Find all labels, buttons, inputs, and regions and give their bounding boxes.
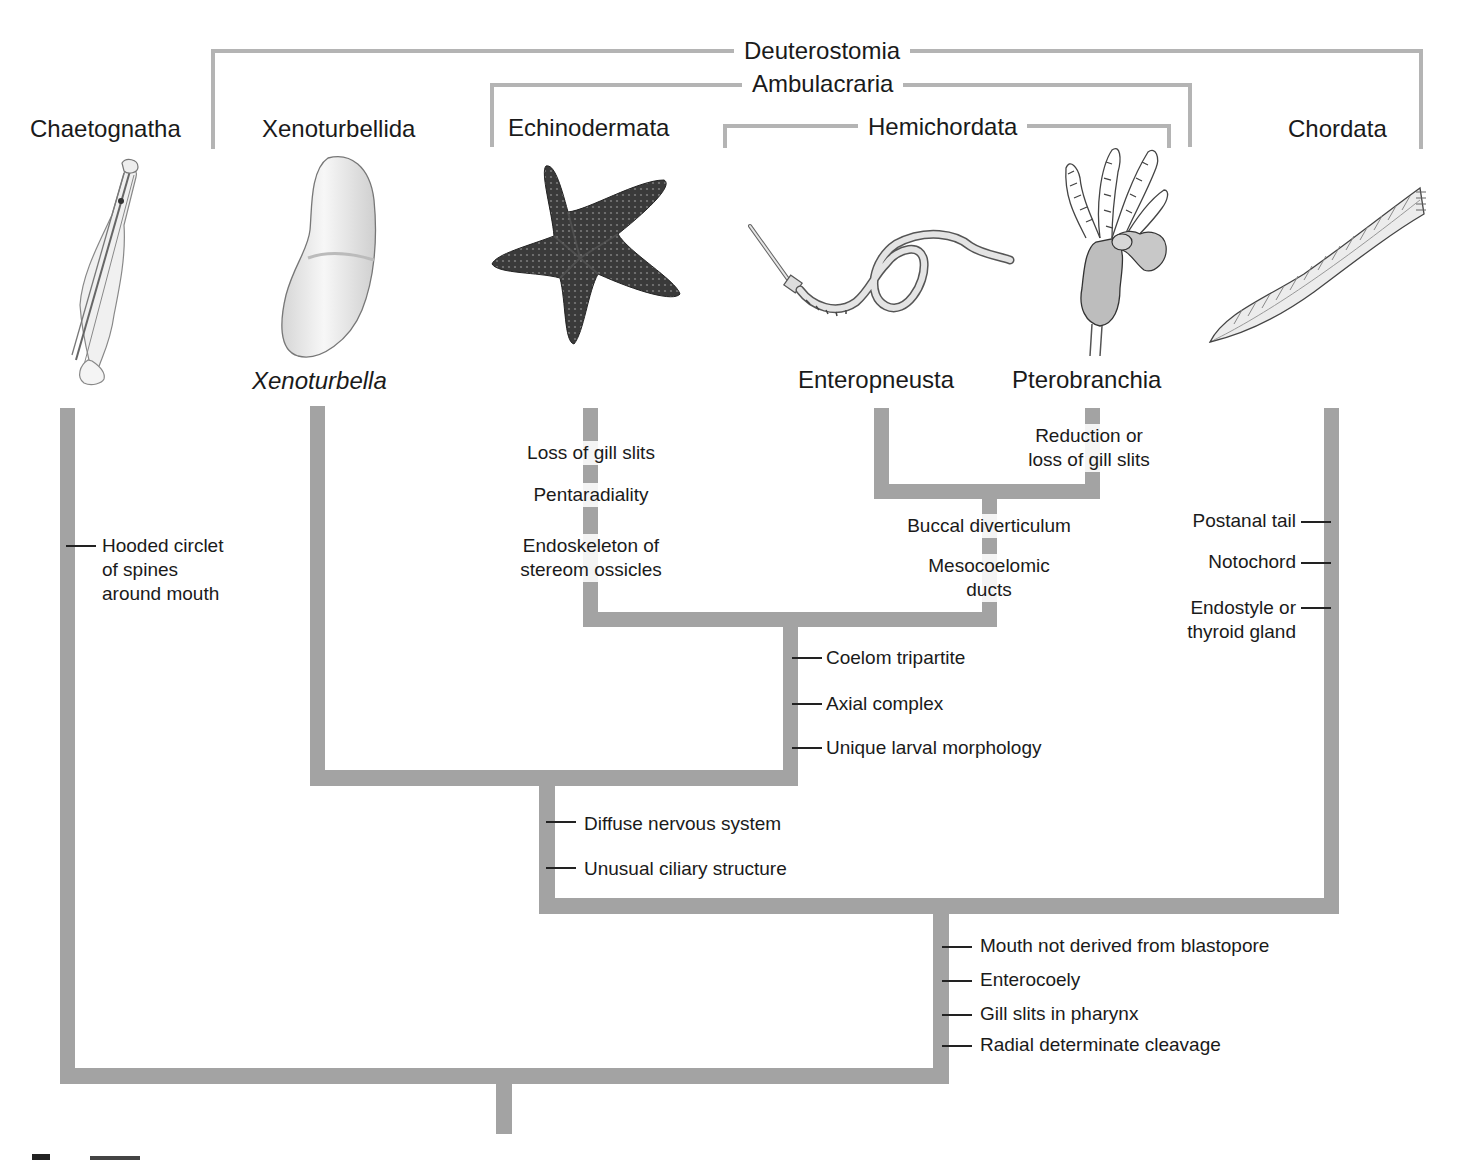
taxon-label-echinodermata: Echinodermata bbox=[508, 114, 669, 142]
branch-xenambulacraria-node bbox=[539, 770, 555, 914]
trait-tick bbox=[942, 946, 972, 948]
trait-tick bbox=[1301, 562, 1331, 564]
branch-enteropneusta bbox=[874, 408, 889, 499]
trait-diffuse-nervous-system: Diffuse nervous system bbox=[584, 812, 781, 836]
taxon-label-enteropneusta: Enteropneusta bbox=[798, 366, 954, 394]
trait-loss-of-gill-slits: Loss of gill slits bbox=[512, 441, 670, 465]
trait-gill-slits-in-pharynx: Gill slits in pharynx bbox=[980, 1002, 1138, 1026]
hemichordata-bracket-left bbox=[723, 124, 727, 148]
trait-tick bbox=[942, 1045, 972, 1047]
taxon-label-chordata: Chordata bbox=[1288, 115, 1387, 143]
trait-pentaradiality: Pentaradiality bbox=[522, 483, 660, 507]
figure-caption-fragment bbox=[32, 1146, 172, 1160]
arrow-worm-illustration bbox=[40, 155, 150, 395]
branch-hemichordata-horizontal bbox=[874, 484, 1100, 499]
branch-chaetognatha bbox=[60, 408, 75, 1084]
trait-postanal-tail: Postanal tail bbox=[1150, 509, 1296, 533]
taxon-label-pterobranchia: Pterobranchia bbox=[1012, 366, 1161, 394]
branch-ambulacraria-node bbox=[783, 612, 798, 786]
branch-root-stem bbox=[496, 1084, 512, 1134]
trait-unique-larval-morphology: Unique larval morphology bbox=[826, 736, 1041, 760]
branch-chordata bbox=[1324, 408, 1339, 914]
trait-tick bbox=[1301, 521, 1331, 523]
trait-buccal-diverticulum: Buccal diverticulum bbox=[896, 514, 1082, 538]
trait-radial-determinate-cleavage: Radial determinate cleavage bbox=[980, 1033, 1221, 1057]
trait-tick bbox=[546, 821, 576, 823]
deuterostomia-bracket-left bbox=[211, 49, 215, 149]
trait-tick bbox=[792, 703, 822, 705]
clade-label-ambulacraria: Ambulacraria bbox=[742, 70, 903, 98]
clade-label-deuterostomia: Deuterostomia bbox=[734, 37, 910, 65]
trait-tick bbox=[942, 1014, 972, 1016]
taxon-label-xenoturbellida: Xenoturbellida bbox=[262, 115, 415, 143]
ambulacraria-bracket-left bbox=[490, 83, 494, 147]
trait-reduction-gill-slits: Reduction or loss of gill slits bbox=[1016, 424, 1162, 472]
trait-axial-complex: Axial complex bbox=[826, 692, 943, 716]
clade-label-hemichordata: Hemichordata bbox=[858, 113, 1027, 141]
branch-deuterostomia-node bbox=[933, 898, 949, 1084]
trait-tick bbox=[66, 545, 96, 547]
trait-tick bbox=[546, 867, 576, 869]
trait-tick bbox=[792, 657, 822, 659]
branch-xenoturbella bbox=[310, 406, 325, 786]
trait-tick bbox=[792, 747, 822, 749]
trait-mouth-not-from-blastopore: Mouth not derived from blastopore bbox=[980, 934, 1269, 958]
xenoturbella-illustration bbox=[270, 150, 390, 365]
trait-unusual-ciliary-structure: Unusual ciliary structure bbox=[584, 857, 787, 881]
lancelet-illustration bbox=[1204, 184, 1429, 349]
branch-root-horizontal bbox=[60, 1068, 949, 1084]
trait-coelom-tripartite: Coelom tripartite bbox=[826, 646, 965, 670]
trait-endostyle: Endostyle or thyroid gland bbox=[1150, 596, 1296, 644]
trait-endoskeleton: Endoskeleton of stereom ossicles bbox=[506, 534, 676, 582]
deuterostomia-bracket-right bbox=[1419, 49, 1423, 149]
trait-notochord: Notochord bbox=[1150, 550, 1296, 574]
trait-mesocoelomic-ducts: Mesocoelomic ducts bbox=[916, 554, 1062, 602]
acorn-worm-illustration bbox=[746, 220, 1016, 330]
ambulacraria-bracket-right bbox=[1188, 83, 1192, 147]
pterobranch-illustration bbox=[1056, 138, 1181, 358]
trait-tick bbox=[1301, 607, 1331, 609]
branch-ambulacraria-horizontal bbox=[583, 612, 997, 627]
branch-deuterostomia-horizontal bbox=[539, 898, 1339, 914]
trait-hooded-circlet: Hooded circlet of spines around mouth bbox=[102, 534, 223, 606]
taxon-label-xenoturbella: Xenoturbella bbox=[252, 367, 387, 395]
taxon-label-chaetognatha: Chaetognatha bbox=[30, 115, 181, 143]
sea-star-illustration bbox=[488, 162, 688, 352]
branch-xenambulacraria-horizontal bbox=[310, 770, 798, 786]
trait-enterocoely: Enterocoely bbox=[980, 968, 1080, 992]
trait-tick bbox=[942, 980, 972, 982]
